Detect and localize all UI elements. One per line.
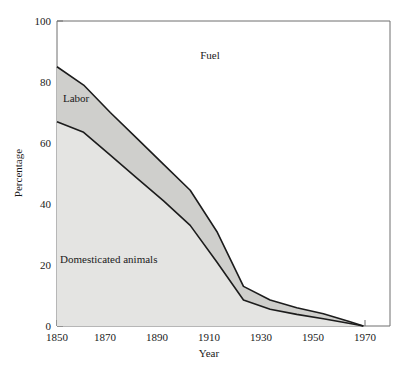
series-label-labor: Labor bbox=[63, 92, 90, 104]
y-tick-label-20: 20 bbox=[40, 259, 52, 271]
area-chart-figure: 100 80 60 40 20 0 1850 1870 1890 1910 19… bbox=[0, 0, 408, 367]
x-tick-label-1950: 1950 bbox=[302, 331, 325, 343]
x-tick-label-1870: 1870 bbox=[94, 331, 117, 343]
series-label-domesticated-animals: Domesticated animals bbox=[60, 253, 157, 265]
y-axis-title: Percentage bbox=[12, 149, 24, 197]
x-tick-label-1930: 1930 bbox=[250, 331, 273, 343]
y-tick-label-80: 80 bbox=[40, 76, 52, 88]
x-tick-label-1910: 1910 bbox=[198, 331, 221, 343]
x-tick-label-1890: 1890 bbox=[146, 331, 169, 343]
y-tick-label-100: 100 bbox=[35, 15, 52, 27]
y-tick-label-40: 40 bbox=[40, 198, 52, 210]
chart-container: 100 80 60 40 20 0 1850 1870 1890 1910 19… bbox=[0, 0, 408, 367]
x-tick-label-1970: 1970 bbox=[354, 331, 377, 343]
y-tick-label-60: 60 bbox=[40, 137, 52, 149]
x-tick-label-1850: 1850 bbox=[46, 331, 69, 343]
x-axis-title: Year bbox=[199, 347, 220, 359]
series-label-fuel: Fuel bbox=[200, 49, 220, 61]
